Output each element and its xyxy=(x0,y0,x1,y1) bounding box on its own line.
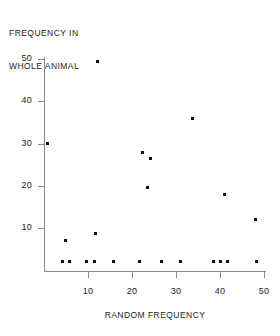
data-point xyxy=(68,260,71,263)
y-tick-mark xyxy=(38,101,44,102)
data-point xyxy=(64,239,67,242)
x-tick-mark xyxy=(264,272,265,278)
x-tick-mark xyxy=(220,272,221,278)
x-tick-label: 30 xyxy=(161,286,191,296)
data-point xyxy=(93,260,96,263)
x-tick-label: 10 xyxy=(73,286,103,296)
x-axis-title: RANDOM FREQUENCY xyxy=(44,310,266,320)
data-point xyxy=(146,186,149,189)
data-point xyxy=(254,218,257,221)
y-tick-mark xyxy=(38,228,44,229)
data-point xyxy=(94,232,97,235)
data-point xyxy=(141,151,144,154)
y-tick-mark xyxy=(38,186,44,187)
data-point xyxy=(160,260,163,263)
data-point xyxy=(112,260,115,263)
scatter-plot-figure: FREQUENCY IN WHOLE ANIMAL 1020304050 102… xyxy=(0,0,280,336)
data-point xyxy=(46,142,49,145)
data-point xyxy=(212,260,215,263)
y-tick-mark xyxy=(38,59,44,60)
data-point xyxy=(223,193,226,196)
x-tick-mark xyxy=(176,272,177,278)
y-tick-label: 20 xyxy=(6,180,32,190)
y-tick-label: 30 xyxy=(6,138,32,148)
plot-area xyxy=(44,57,266,272)
y-tick-mark xyxy=(38,144,44,145)
data-point xyxy=(179,260,182,263)
data-point xyxy=(219,260,222,263)
y-tick-label: 40 xyxy=(6,95,32,105)
data-point xyxy=(226,260,229,263)
data-point xyxy=(85,260,88,263)
data-point xyxy=(191,117,194,120)
data-point xyxy=(255,260,258,263)
data-point xyxy=(138,260,141,263)
y-axis-title-line-1: FREQUENCY IN xyxy=(9,28,79,39)
y-tick-label: 10 xyxy=(6,222,32,232)
x-tick-label: 20 xyxy=(117,286,147,296)
x-tick-label: 40 xyxy=(205,286,235,296)
data-point xyxy=(61,260,64,263)
x-tick-mark xyxy=(88,272,89,278)
x-tick-label: 50 xyxy=(249,286,279,296)
data-point xyxy=(96,60,99,63)
data-point xyxy=(149,157,152,160)
y-tick-label: 50 xyxy=(6,53,32,63)
x-tick-mark xyxy=(132,272,133,278)
